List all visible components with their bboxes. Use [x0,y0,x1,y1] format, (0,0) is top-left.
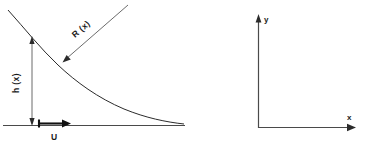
velocity-label: U [51,132,58,142]
right-panel: y x [256,14,356,131]
height-arrow-head-down [29,118,34,126]
y-axis-label: y [264,15,269,24]
diagram-canvas: h (x) R (x) U y x [0,0,370,146]
y-axis-arrow-head [256,14,262,23]
velocity-arrow-head [62,120,71,128]
figure-root: h (x) R (x) U y x [0,0,370,146]
x-axis-label: x [347,113,352,122]
x-axis-arrow-head [347,124,356,131]
radius-label: R (x) [70,18,92,39]
decay-curve [8,10,184,124]
height-label: h (x) [11,73,21,93]
left-panel: h (x) R (x) U [3,5,185,142]
